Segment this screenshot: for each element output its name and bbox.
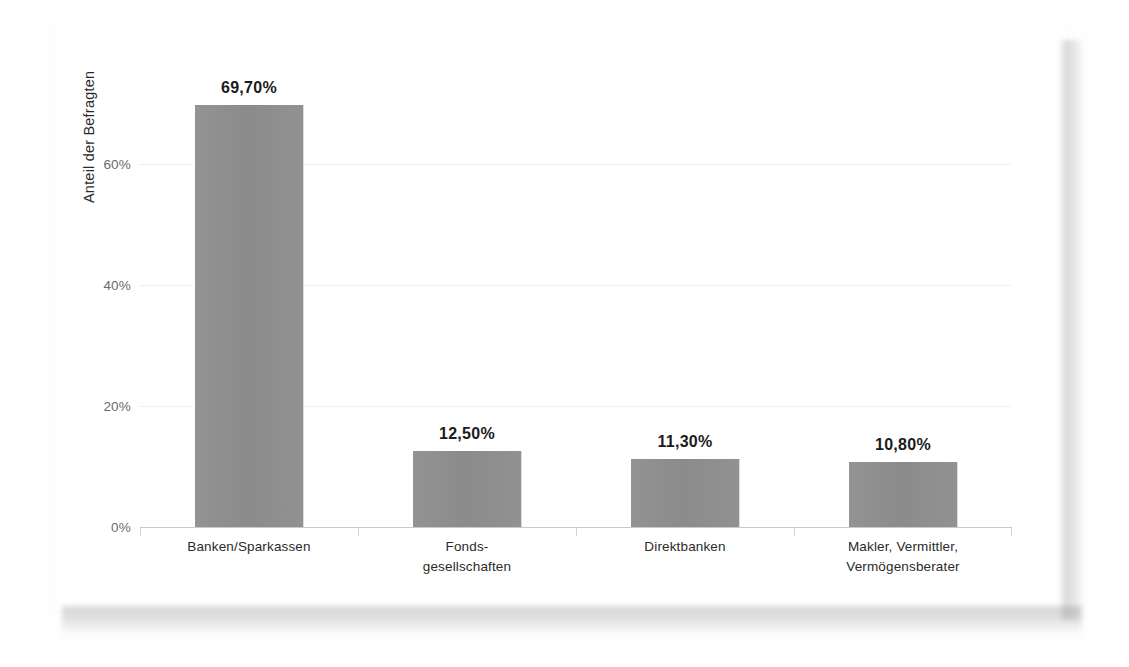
category-tick-0 [140, 527, 141, 536]
y-tick-label-40: 40% [103, 278, 131, 293]
bar-group-direktbanken[interactable]: 11,30% Direktbanken [576, 103, 794, 527]
bar-makler[interactable] [849, 462, 957, 527]
category-label-banken-sparkassen: Banken/Sparkassen [134, 537, 364, 557]
bar-banken-sparkassen[interactable] [195, 105, 303, 527]
category-tick-3 [794, 527, 795, 536]
chart-card: Anteil der Befragten 0% 20% 40% 60% [55, 28, 1067, 611]
bar-group-makler[interactable]: 10,80% Makler, Vermittler, Vermögensbera… [794, 103, 1012, 527]
y-tick-label-0: 0% [111, 520, 131, 535]
category-tick-2 [576, 527, 577, 536]
category-tick-1 [358, 527, 359, 536]
category-label-fondsgesellschaften: Fonds- gesellschaften [352, 537, 582, 576]
bar-direktbanken[interactable] [631, 459, 739, 527]
y-tick-label-60: 60% [103, 157, 131, 172]
plot-area: 0% 20% 40% 60% 69,70% Banken/Sparkassen [140, 103, 1012, 527]
y-axis-title: Anteil der Befragten [81, 71, 97, 203]
category-label-direktbanken: Direktbanken [570, 537, 800, 557]
scanned-page: Anteil der Befragten 0% 20% 40% 60% [0, 0, 1129, 667]
y-tick-label-20: 20% [103, 399, 131, 414]
bar-group-fondsgesellschaften[interactable]: 12,50% Fonds- gesellschaften [358, 103, 576, 527]
bar-value-fondsgesellschaften: 12,50% [439, 425, 495, 443]
category-tick-4 [1011, 527, 1012, 536]
category-label-makler: Makler, Vermittler, Vermögensberater [788, 537, 1018, 576]
bar-value-direktbanken: 11,30% [657, 433, 712, 451]
bar-fondsgesellschaften[interactable] [413, 451, 521, 527]
bar-value-banken-sparkassen: 69,70% [221, 79, 277, 97]
bar-value-makler: 10,80% [875, 436, 931, 454]
bar-group-banken-sparkassen[interactable]: 69,70% Banken/Sparkassen [140, 103, 358, 527]
